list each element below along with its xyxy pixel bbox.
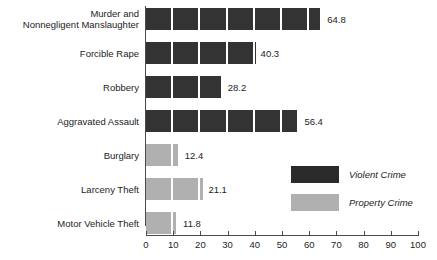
x-axis-tick (336, 231, 337, 236)
bar-segment (173, 110, 198, 132)
bar-segment (173, 76, 198, 98)
bar-segment (173, 42, 198, 64)
bar-segment (255, 42, 257, 64)
x-axis-tick (364, 231, 365, 236)
bar-value-label: 12.4 (185, 150, 204, 161)
bar-segment (146, 178, 171, 200)
category-label-line: Larceny Theft (0, 184, 139, 195)
bar-segment (282, 110, 297, 132)
bar-value-label: 21.1 (208, 184, 227, 195)
bar-segment (200, 76, 220, 98)
bar-segment (282, 8, 307, 30)
category-label-line: Murder and (0, 8, 139, 19)
bar-segment (228, 110, 253, 132)
x-axis-tick (309, 231, 310, 236)
x-axis-tick-label: 0 (143, 239, 148, 250)
bar (146, 110, 299, 132)
bar-segment (146, 212, 171, 234)
category-label: Larceny Theft (0, 184, 139, 195)
bar-segment (173, 178, 198, 200)
x-axis-tick-label: 80 (358, 239, 369, 250)
x-axis-tick-label: 50 (277, 239, 288, 250)
bar-segment (173, 144, 178, 166)
bar-segment (200, 178, 203, 200)
bar-segment (200, 42, 225, 64)
x-axis-tick (200, 231, 201, 236)
bar-segment (146, 110, 171, 132)
x-axis-tick (228, 231, 229, 236)
bar (146, 8, 322, 30)
bar-value-label: 40.3 (261, 48, 280, 59)
category-label-line: Motor Vehicle Theft (0, 218, 139, 229)
bar-segment (173, 8, 198, 30)
x-axis-tick-label: 100 (410, 239, 426, 250)
x-axis-tick-label: 30 (222, 239, 233, 250)
x-axis-tick (146, 231, 147, 236)
bar-segment (309, 8, 320, 30)
bar-segment (146, 8, 171, 30)
category-label: Motor Vehicle Theft (0, 218, 139, 229)
bar (146, 42, 256, 64)
bar-segment (228, 8, 253, 30)
category-label-line: Nonnegligent Manslaughter (0, 19, 139, 30)
bar-value-label: 11.8 (183, 218, 201, 229)
x-axis-tick-label: 40 (250, 239, 261, 250)
bar-value-label: 64.8 (327, 14, 346, 25)
category-label: Burglary (0, 150, 139, 161)
legend-swatch (291, 166, 339, 183)
category-label-line: Aggravated Assault (0, 116, 139, 127)
x-axis-tick-label: 90 (386, 239, 397, 250)
legend-label: Violent Crime (349, 169, 406, 180)
bar-value-label: 28.2 (228, 82, 247, 93)
category-label-line: Forcible Rape (0, 48, 139, 59)
bar-segment (255, 110, 280, 132)
x-axis-tick-label: 70 (331, 239, 342, 250)
category-label: Murder andNonnegligent Manslaughter (0, 8, 139, 30)
x-axis-tick-label: 20 (195, 239, 206, 250)
x-axis-tick-label: 10 (168, 239, 179, 250)
bar-segment (200, 8, 225, 30)
bar-segment (255, 8, 280, 30)
x-axis-tick (282, 231, 283, 236)
x-axis-tick (418, 231, 419, 236)
bar-segment (146, 42, 171, 64)
legend-label: Property Crime (349, 197, 413, 208)
category-label: Robbery (0, 82, 139, 93)
x-axis-tick (255, 231, 256, 236)
category-label: Aggravated Assault (0, 116, 139, 127)
category-label-line: Burglary (0, 150, 139, 161)
bar-segment (146, 144, 171, 166)
category-label: Forcible Rape (0, 48, 139, 59)
x-axis-tick-label: 60 (304, 239, 315, 250)
category-label-line: Robbery (0, 82, 139, 93)
bar (146, 178, 203, 200)
bar-chart: Murder andNonnegligent ManslaughterForci… (0, 0, 437, 260)
bar-segment (200, 110, 225, 132)
bar-segment (146, 76, 171, 98)
bar (146, 144, 180, 166)
legend-swatch (291, 194, 339, 211)
x-axis: 0102030405060708090100 (146, 235, 418, 260)
x-axis-tick (173, 231, 174, 236)
bar-value-label: 56.4 (304, 116, 323, 127)
bar (146, 76, 223, 98)
bar-segment (228, 42, 253, 64)
x-axis-tick (391, 231, 392, 236)
